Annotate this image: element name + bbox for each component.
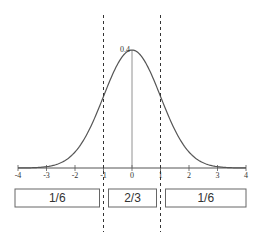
region-label: 2/3 [124,191,141,205]
x-tick-label: -4 [15,171,22,180]
x-tick-label: 2 [187,171,191,180]
region-label: 1/6 [49,191,66,205]
normal-distribution-chart: -4-3-2-1012340.41/62/31/6 [0,0,261,240]
x-tick-label: -3 [43,171,50,180]
x-tick-label: 4 [244,171,248,180]
region-label: 1/6 [197,191,214,205]
peak-label: 0.4 [120,45,130,54]
x-tick-label: 0 [130,171,134,180]
x-tick-label: -2 [72,171,79,180]
x-tick-label: 3 [216,171,220,180]
